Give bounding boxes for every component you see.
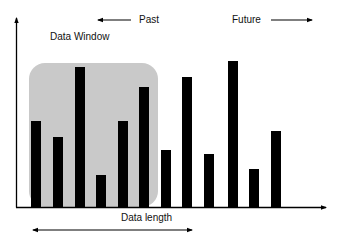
data-window-label: Data Window xyxy=(50,31,109,43)
bar-6 xyxy=(139,87,149,207)
bar-11 xyxy=(249,169,259,207)
bar-2 xyxy=(53,137,63,207)
past-label: Past xyxy=(139,14,159,26)
bar-9 xyxy=(204,154,214,207)
bar-10 xyxy=(228,61,238,207)
bar-3 xyxy=(75,67,85,207)
bar-12 xyxy=(271,131,281,207)
bar-8 xyxy=(182,77,192,207)
data-length-label: Data length xyxy=(121,212,172,224)
bar-1 xyxy=(31,121,41,207)
future-label: Future xyxy=(232,14,261,26)
bar-4 xyxy=(96,175,106,207)
bar-7 xyxy=(161,150,171,207)
data-window-highlight xyxy=(29,63,158,207)
bar-5 xyxy=(118,121,128,207)
